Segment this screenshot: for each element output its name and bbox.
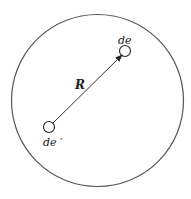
charge-element-de-circle [120,46,131,57]
label-de-prime: de ′ [43,136,63,149]
label-vector-r: R [74,78,85,92]
diagram-canvas: de R de ′ [0,0,191,199]
outer-sphere-circle [12,15,184,187]
label-de: de [118,34,132,47]
vector-r-arrow [52,55,122,124]
